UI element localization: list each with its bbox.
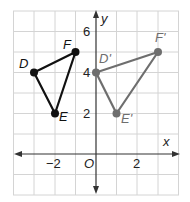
vertex-e-label: E bbox=[59, 109, 68, 124]
x-axis-arrow-left-icon bbox=[14, 151, 22, 157]
axes bbox=[18, 14, 176, 190]
x-tick-label: 2 bbox=[133, 156, 140, 171]
triangle-def-prime: D' E' F' bbox=[92, 30, 166, 126]
y-tick-label: 4 bbox=[83, 65, 90, 80]
y-tick-label: 6 bbox=[83, 24, 90, 39]
x-tick-label: −2 bbox=[46, 156, 61, 171]
vertex-d-prime-label: D' bbox=[99, 51, 111, 66]
vertex-e bbox=[51, 110, 59, 118]
x-axis-label: x bbox=[162, 134, 170, 149]
coordinate-plane: y x O −2 2 2 4 6 D E F D' E' F' bbox=[0, 0, 190, 202]
vertex-f-label: F bbox=[63, 37, 72, 52]
y-axis-label: y bbox=[100, 11, 109, 26]
triangle-def: D E F bbox=[19, 37, 80, 124]
vertex-d bbox=[30, 69, 38, 77]
y-tick-label: 2 bbox=[83, 106, 90, 121]
vertex-f-prime-label: F' bbox=[155, 30, 166, 45]
vertex-d-prime bbox=[92, 69, 100, 77]
vertex-e-prime-label: E' bbox=[121, 111, 133, 126]
vertex-f-prime bbox=[154, 48, 162, 56]
origin-label: O bbox=[84, 156, 94, 171]
vertex-d-label: D bbox=[19, 56, 28, 71]
vertex-e-prime bbox=[113, 110, 121, 118]
y-axis-arrow-down-icon bbox=[93, 186, 99, 194]
vertex-f bbox=[72, 48, 80, 56]
